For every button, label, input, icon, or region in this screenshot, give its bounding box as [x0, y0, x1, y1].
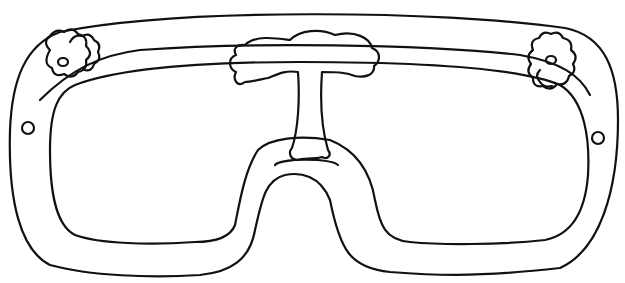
nose-bridge	[275, 160, 338, 165]
goggles-drawing	[0, 0, 625, 283]
outer-frame	[10, 14, 618, 276]
right-rivet	[592, 132, 604, 144]
inner-lens-frame	[50, 62, 588, 244]
right-flower	[528, 33, 575, 89]
left-flower	[46, 29, 99, 76]
left-rivet	[22, 122, 34, 134]
center-tree	[230, 31, 379, 160]
